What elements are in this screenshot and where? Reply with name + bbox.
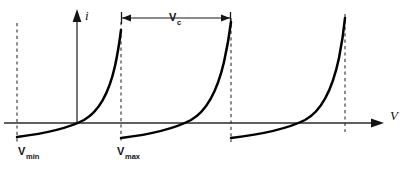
vc-left-arrowhead-icon bbox=[122, 15, 131, 22]
curve-cycle-3 bbox=[231, 18, 345, 138]
x-axis-label: V bbox=[390, 108, 400, 123]
vc-label-group: V c bbox=[169, 11, 181, 27]
v-max-label-subscript: max bbox=[125, 152, 141, 161]
vc-right-arrowhead-icon bbox=[221, 15, 230, 22]
iv-sawtooth-chart: i V V c V min V max bbox=[0, 0, 404, 169]
v-min-label-base: V bbox=[18, 145, 26, 157]
v-min-label-subscript: min bbox=[26, 152, 40, 161]
vc-label-subscript: c bbox=[177, 18, 181, 27]
v-min-label-group: V min bbox=[18, 145, 40, 161]
vc-label-base: V bbox=[169, 11, 177, 23]
v-max-label-group: V max bbox=[117, 145, 141, 161]
figure-canvas: i V V c V min V max bbox=[0, 0, 404, 169]
v-max-label-base: V bbox=[117, 145, 125, 157]
x-axis-arrowhead-icon bbox=[371, 119, 384, 128]
y-axis-label: i bbox=[85, 8, 89, 23]
curve-cycle-2 bbox=[121, 22, 231, 138]
y-axis-arrowhead-icon bbox=[73, 9, 82, 22]
curve-cycle-1 bbox=[17, 30, 121, 137]
